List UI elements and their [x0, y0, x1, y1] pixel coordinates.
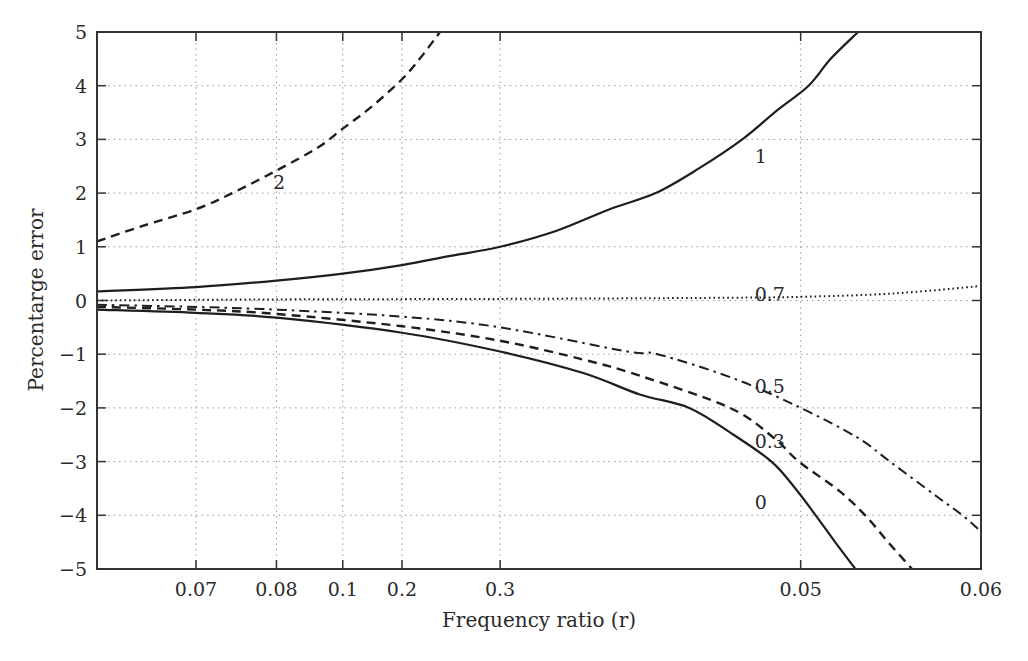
y-tick-label: 3 [75, 128, 87, 150]
curve-label-0: 0 [755, 491, 767, 513]
x-tick-label: 0.08 [255, 578, 297, 600]
curve-2 [97, 32, 440, 241]
x-tick-labels: 0.070.080.10.20.30.050.06 [175, 578, 1002, 600]
x-axis-label: Frequency ratio (r) [442, 608, 636, 632]
curve-label-0_3: 0.3 [755, 430, 785, 452]
grid-lines [97, 32, 981, 569]
x-tick-label: 0.05 [780, 578, 822, 600]
curve-0_7 [97, 286, 981, 300]
curve-labels: 210.70.50.30 [273, 145, 785, 513]
y-axis-label: Percentarge error [24, 208, 48, 391]
y-tick-label: −4 [59, 504, 87, 526]
curve-0_3 [97, 307, 912, 569]
curve-label-0_5: 0.5 [755, 375, 785, 397]
y-tick-label: −1 [59, 343, 87, 365]
y-tick-label: 5 [75, 21, 87, 43]
y-tick-label: 2 [75, 182, 87, 204]
x-tick-label: 0.06 [960, 578, 1002, 600]
chart: −5−4−3−2−1012345 0.070.080.10.20.30.050.… [0, 0, 1028, 661]
curve-label-0_7: 0.7 [755, 283, 785, 305]
curve-label-1: 1 [755, 145, 767, 167]
y-tick-label: 1 [75, 236, 87, 258]
curve-0 [97, 310, 855, 569]
x-tick-label: 0.3 [485, 578, 515, 600]
y-tick-label: 0 [75, 290, 87, 312]
y-tick-label: 4 [75, 75, 87, 97]
y-tick-label: −5 [59, 558, 87, 580]
y-tick-label: −3 [59, 451, 87, 473]
curve-0_5 [97, 305, 981, 532]
curve-1 [97, 32, 858, 291]
x-tick-label: 0.1 [328, 578, 358, 600]
y-tick-label: −2 [59, 397, 87, 419]
x-tick-label: 0.07 [175, 578, 217, 600]
x-tick-label: 0.2 [387, 578, 417, 600]
y-tick-labels: −5−4−3−2−1012345 [59, 21, 87, 580]
curve-label-2: 2 [273, 171, 285, 193]
